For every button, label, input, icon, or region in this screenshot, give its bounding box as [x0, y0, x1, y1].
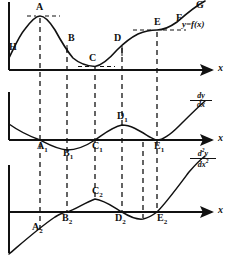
alignment-dashed-lines — [40, 18, 157, 233]
point-label-e1: E1 — [154, 141, 164, 154]
point-label-g: G — [196, 0, 204, 10]
d2y-numerator: d2y — [190, 148, 216, 158]
second-derivative-curve — [9, 156, 205, 254]
calculus-derivative-figure: H A B C D E F G y=f(x) x A1 B1 C1 D1 E1 … — [0, 0, 234, 265]
point-label-c1: C1 — [92, 141, 103, 154]
point-label-d1: D1 — [117, 111, 128, 124]
point-label-b: B — [68, 33, 75, 43]
point-label-a2: A2 — [32, 222, 43, 235]
panel-second-derivative — [9, 156, 212, 254]
dy-numerator: dy — [190, 92, 212, 100]
dx-denominator: dx — [190, 100, 212, 109]
point-label-c2: C2 — [92, 186, 103, 199]
x-axis-label-panel2: x — [218, 133, 223, 143]
dy-dx-label: dy dx — [190, 92, 212, 110]
point-label-h: H — [9, 42, 17, 52]
x-axis-label-panel3: x — [218, 205, 223, 215]
dx2-denominator: dx2 — [190, 158, 216, 169]
d2y-dx2-label: d2y dx2 — [190, 148, 216, 169]
point-label-e: E — [154, 17, 161, 27]
point-label-d2: D2 — [115, 213, 126, 226]
point-label-b1: B1 — [63, 148, 73, 161]
point-label-d: D — [114, 33, 121, 43]
point-label-a1: A1 — [37, 141, 48, 154]
point-label-c: C — [89, 53, 96, 63]
x-axis-label-panel1: x — [218, 63, 223, 73]
point-label-a: A — [36, 2, 43, 12]
function-equation-label: y=f(x) — [182, 20, 205, 29]
point-label-b2: B2 — [62, 213, 72, 226]
point-label-e2: E2 — [157, 213, 167, 226]
